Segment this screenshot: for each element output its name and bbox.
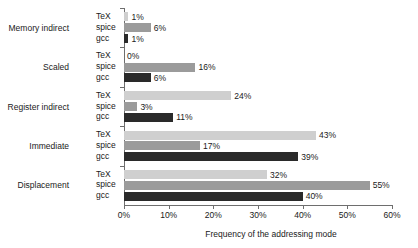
x-tick-1: [169, 206, 170, 209]
bar-value-memory-indirect-spice: 6%: [154, 24, 166, 33]
bar-value-memory-indirect-tex: 1%: [131, 13, 143, 22]
x-tick-3: [258, 206, 259, 209]
bar-memory-indirect-spice: [124, 23, 151, 32]
category-label-0: Memory indirect: [9, 23, 69, 33]
bar-value-memory-indirect-gcc: 1%: [131, 35, 143, 44]
series-label-gcc-0: gcc: [96, 34, 109, 44]
series-label-tex-1: TeX: [96, 51, 111, 61]
category-label-4: Displacement: [18, 180, 70, 190]
x-tick-label-3: 30%: [249, 210, 266, 220]
x-tick-label-0: 0%: [118, 210, 130, 220]
bar-register-indirect-gcc: [124, 113, 173, 122]
bar-immediate-tex: [124, 131, 316, 140]
series-label-spice-2: spice: [96, 102, 116, 112]
series-label-tex-4: TeX: [96, 170, 111, 180]
bar-value-displacement-spice: 55%: [373, 181, 390, 190]
bar-value-register-indirect-spice: 3%: [140, 103, 152, 112]
bar-value-scaled-tex: 0%: [127, 52, 139, 61]
bar-register-indirect-spice: [124, 102, 137, 111]
plot-area: 1%6%1%0%16%6%24%3%11%43%17%39%32%55%40%: [124, 8, 392, 205]
x-tick-label-5: 50%: [339, 210, 356, 220]
series-label-spice-0: spice: [96, 23, 116, 33]
category-label-3: Immediate: [29, 141, 69, 151]
x-tick-label-4: 40%: [294, 210, 311, 220]
bar-value-immediate-gcc: 39%: [301, 153, 318, 162]
category-label-1: Scaled: [43, 62, 69, 72]
x-axis-title-text: Frequency of the addressing mode: [205, 229, 336, 239]
series-label-gcc-2: gcc: [96, 112, 109, 122]
bar-displacement-gcc: [124, 192, 303, 201]
bar-memory-indirect-tex: [124, 12, 128, 21]
series-label-gcc-4: gcc: [96, 191, 109, 201]
bar-chart: Memory indirect Scaled Register indirect…: [0, 0, 418, 248]
bar-value-scaled-spice: 16%: [198, 63, 215, 72]
x-tick-6: [392, 206, 393, 209]
category-label-2: Register indirect: [8, 102, 69, 112]
series-label-spice-3: spice: [96, 141, 116, 151]
bar-value-immediate-spice: 17%: [203, 142, 220, 151]
series-label-spice-1: spice: [96, 62, 116, 72]
bar-displacement-tex: [124, 170, 267, 179]
series-label-spice-4: spice: [96, 180, 116, 190]
x-tick-5: [347, 206, 348, 209]
series-label-gcc-1: gcc: [96, 73, 109, 83]
x-tick-label-1: 10%: [160, 210, 177, 220]
bar-memory-indirect-gcc: [124, 34, 128, 43]
bar-displacement-spice: [124, 181, 370, 190]
x-tick-0: [124, 206, 125, 209]
bar-immediate-gcc: [124, 152, 298, 161]
bar-scaled-gcc: [124, 73, 151, 82]
series-label-tex-2: TeX: [96, 91, 111, 101]
bar-value-immediate-tex: 43%: [319, 131, 336, 140]
bar-register-indirect-tex: [124, 91, 231, 100]
x-tick-label-6: 60%: [383, 210, 400, 220]
bar-immediate-spice: [124, 141, 200, 150]
x-tick-2: [213, 206, 214, 209]
bar-value-scaled-gcc: 6%: [154, 74, 166, 83]
series-label-tex-0: TeX: [96, 12, 111, 22]
bar-value-displacement-tex: 32%: [270, 171, 287, 180]
series-label-tex-3: TeX: [96, 130, 111, 140]
x-tick-label-2: 20%: [205, 210, 222, 220]
bar-value-register-indirect-gcc: 11%: [176, 113, 192, 122]
bar-value-register-indirect-tex: 24%: [234, 92, 251, 101]
bar-scaled-spice: [124, 63, 195, 72]
x-axis-title: Frequency of the addressing mode: [0, 229, 418, 239]
bar-value-displacement-gcc: 40%: [306, 192, 323, 201]
series-label-gcc-3: gcc: [96, 152, 109, 162]
x-tick-4: [303, 206, 304, 209]
